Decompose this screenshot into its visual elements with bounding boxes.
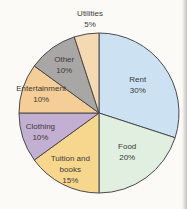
- pie-label-utilities: Utilities5%: [77, 9, 103, 29]
- budget-pie-chart: Rent30%Food20%Tuition andbooks15%Clothin…: [0, 0, 187, 209]
- scanned-pie-chart-page: Rent30%Food20%Tuition andbooks15%Clothin…: [0, 0, 187, 209]
